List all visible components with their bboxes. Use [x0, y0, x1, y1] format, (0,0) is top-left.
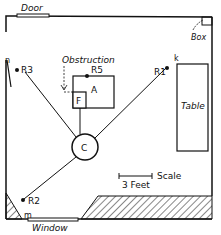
reflector-r3-label: R3: [21, 65, 33, 75]
reflector-r2-label: R2: [28, 196, 40, 206]
center-c-label: C: [81, 143, 87, 153]
ray-c-r1: [95, 68, 166, 138]
reflector-r3-dot: [15, 68, 19, 72]
scale-label: Scale: [157, 171, 182, 181]
panel-f-label: F: [76, 96, 81, 106]
hatched-area-left: [6, 193, 22, 219]
scale-length-label: 3 Feet: [122, 180, 150, 190]
hatched-area-right: [81, 196, 212, 219]
reflector-r5-label: R5: [91, 65, 103, 75]
reflector-r5-dot: [85, 74, 89, 78]
box: [202, 17, 212, 25]
left-wall-upper: [6, 16, 16, 32]
reflector-r1-label: R1: [154, 67, 166, 77]
door: [17, 14, 49, 17]
scale-bar: Scale 3 Feet: [119, 171, 182, 190]
window-label: Window: [32, 223, 68, 233]
point-k-label: k: [174, 54, 179, 63]
door-label: Door: [21, 3, 44, 13]
panel-a-label: A: [91, 85, 98, 95]
window: [28, 218, 78, 221]
floor-plan: Door Box Table k Obstruction A F C R1 R2…: [0, 0, 221, 235]
reflector-r2-dot: [21, 198, 25, 202]
box-label: Box: [191, 33, 206, 42]
table-label: Table: [181, 101, 205, 111]
ray-c-r2: [24, 157, 76, 199]
ray-c-r3: [25, 72, 76, 137]
obstruction-label: Obstruction: [62, 55, 115, 65]
